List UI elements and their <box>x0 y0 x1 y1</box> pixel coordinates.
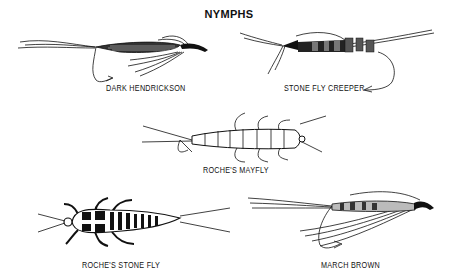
march-brown-illustration <box>0 0 458 279</box>
fly-label-march-brown: MARCH BROWN <box>321 260 380 270</box>
